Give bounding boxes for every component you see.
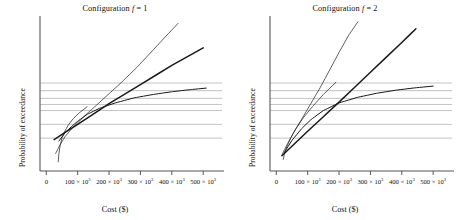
series-saturating-curve [284,86,433,153]
y-axis-title-left: Probability of exceedance [18,88,27,167]
panel-title-prefix-right: Configuration [313,4,362,13]
x-tick-exponent-5: 3 [214,177,217,182]
x-ticks: 0100 × 103200 × 103300 × 103400 × 103500… [275,171,447,185]
x-ticks: 0100 × 103200 × 103300 × 103400 × 103500… [45,171,217,185]
panel-title-suffix-right: = 2 [364,4,377,13]
x-tick-label-1: 100 × 103 [295,177,322,185]
x-axis-title-right: Cost ($) [230,205,460,214]
x-tick-label-2: 200 × 103 [326,177,353,185]
x-tick-exponent-4: 3 [182,177,185,182]
panel-title-left: Configuration f = 1 [0,4,230,13]
y-axis-title-right: Probability of exceedance [248,88,257,167]
x-tick-label-0: 0 [275,178,279,185]
gridlines [270,83,452,138]
x-tick-exponent-2: 3 [350,177,353,182]
panel-title-prefix-left: Configuration [83,4,132,13]
gridlines [40,83,222,138]
x-tick-exponent-2: 3 [120,177,123,182]
x-tick-label-3: 300 × 103 [128,177,155,185]
series-saturating-curve [59,88,206,141]
chart-panel-right: Configuration f = 2 Probability of excee… [230,0,460,220]
figure-container: Configuration f = 1 Probability of excee… [0,0,461,220]
series-straight-thick-line [282,29,416,156]
x-tick-label-2: 200 × 103 [96,177,123,185]
x-tick-label-5: 500 × 103 [420,177,447,185]
axes [40,16,224,171]
panel-title-right: Configuration f = 2 [230,4,460,13]
plot-area-left: 0100 × 103200 × 103300 × 103400 × 103500… [0,0,230,220]
axes [270,16,454,171]
x-tick-label-5: 500 × 103 [190,177,217,185]
x-tick-exponent-1: 3 [88,177,91,182]
series-group [54,23,206,161]
x-tick-label-3: 300 × 103 [358,177,385,185]
panel-title-suffix-left: = 1 [134,4,147,13]
series-steep-thin-curve [282,22,358,155]
x-tick-exponent-1: 3 [318,177,321,182]
series-steep-thin-curve [56,23,178,153]
x-tick-exponent-3: 3 [381,177,384,182]
x-tick-exponent-5: 3 [444,177,447,182]
x-tick-exponent-4: 3 [412,177,415,182]
x-tick-label-1: 100 × 103 [65,177,92,185]
x-tick-label-4: 400 × 103 [159,177,186,185]
plot-area-right: 0100 × 103200 × 103300 × 103400 × 103500… [230,0,460,220]
series-straight-thick-line [54,48,203,140]
x-tick-label-4: 400 × 103 [389,177,416,185]
chart-panel-left: Configuration f = 1 Probability of excee… [0,0,230,220]
x-tick-exponent-3: 3 [151,177,154,182]
x-tick-label-0: 0 [45,178,49,185]
x-axis-title-left: Cost ($) [0,205,230,214]
